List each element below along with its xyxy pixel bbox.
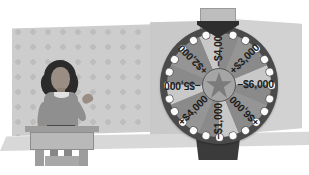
collar xyxy=(54,92,69,98)
game-show-scene: −$4,000+$3,000−$6,000+$6,000−$1,000+$4,0… xyxy=(0,0,309,175)
right-hand-raised xyxy=(81,92,95,105)
podium-base xyxy=(45,156,79,166)
podium xyxy=(25,126,99,166)
podium-front-panel xyxy=(30,132,94,150)
podium-leg-right xyxy=(79,150,88,166)
podium-leg-left xyxy=(35,150,44,166)
prize-wheel[interactable]: −$4,000+$3,000−$6,000+$6,000−$1,000+$4,0… xyxy=(158,8,298,168)
